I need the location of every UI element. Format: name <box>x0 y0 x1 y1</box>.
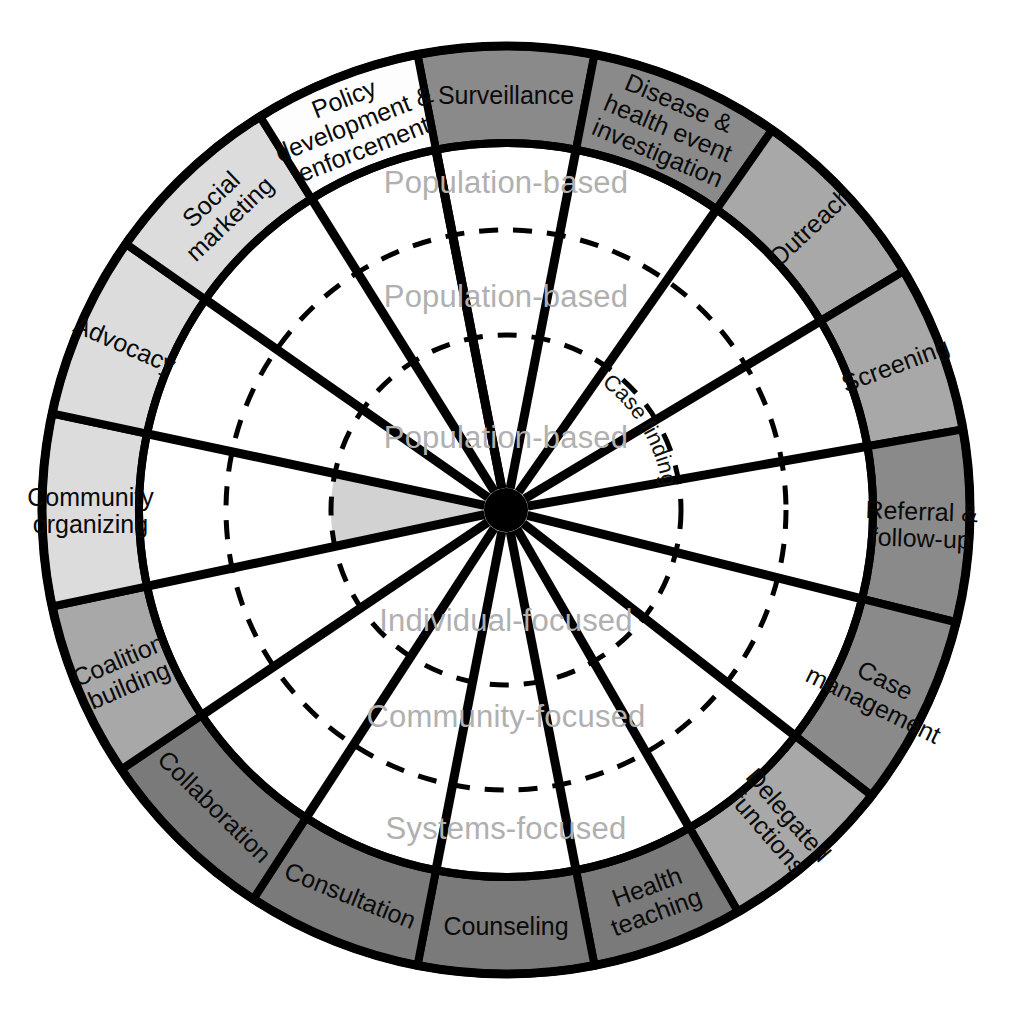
wheel-svg-canvas: SurveillanceDisease &health eventinvesti… <box>0 0 1013 1019</box>
ring-label-population-based-middle: Population-based <box>384 279 629 314</box>
ring-label-individual-focused: Individual-focused <box>379 603 632 638</box>
spoke-12 <box>144 515 484 587</box>
spoke-14 <box>203 298 488 498</box>
intervention-wheel-diagram: SurveillanceDisease &health eventinvesti… <box>0 0 1013 1019</box>
ring-label-population-based-outer: Population-based <box>384 165 629 200</box>
ring-label-community-focused: Community-focused <box>366 699 645 734</box>
segment-label-counseling: Counseling <box>443 912 568 940</box>
segment-label-referral-follow-up: Referral &follow-up <box>864 495 979 554</box>
hub-center-dot <box>484 488 528 532</box>
spoke-10 <box>304 528 494 820</box>
segment-label-community-organizing: Communityorganizing <box>27 483 154 538</box>
spoke-5 <box>527 515 865 599</box>
spoke-4 <box>528 446 871 506</box>
highlight-wedge-community-organizing <box>331 474 506 547</box>
ring-label-systems-focused: Systems-focused <box>386 811 627 846</box>
ring-label-population-based-inner: Population-based <box>384 420 629 455</box>
hub-layer <box>484 488 528 532</box>
segment-label-surveillance: Surveillance <box>438 81 574 109</box>
highlight-wedge-layer <box>331 474 506 547</box>
